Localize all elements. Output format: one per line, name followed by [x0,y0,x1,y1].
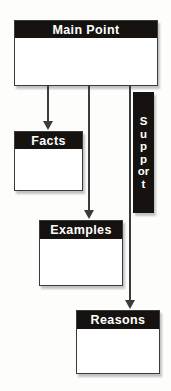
diagram-canvas: Main Point Facts Support Examples Reason… [0,0,171,391]
node-main-point-body[interactable] [15,38,157,85]
node-examples-header: Examples [40,221,122,239]
node-reasons[interactable]: Reasons [76,310,160,374]
arrow-down-icon-examples [84,210,94,219]
node-main-point[interactable]: Main Point [14,20,158,86]
node-main-point-header: Main Point [15,21,157,38]
node-facts-body[interactable] [15,149,82,190]
node-reasons-body[interactable] [77,329,159,373]
support-label-text: Support [138,115,150,190]
node-facts-header: Facts [15,132,82,149]
connector-main-to-examples-line [88,86,90,211]
connector-main-to-reasons-line [129,86,131,301]
node-facts[interactable]: Facts [14,131,83,191]
arrow-down-icon-facts [43,121,53,130]
connector-main-to-facts-line [47,86,49,122]
node-examples[interactable]: Examples [39,220,123,286]
node-reasons-header: Reasons [77,311,159,329]
support-label-bar[interactable]: Support [133,92,154,213]
arrow-down-icon-reasons [125,300,135,309]
node-examples-body[interactable] [40,239,122,285]
